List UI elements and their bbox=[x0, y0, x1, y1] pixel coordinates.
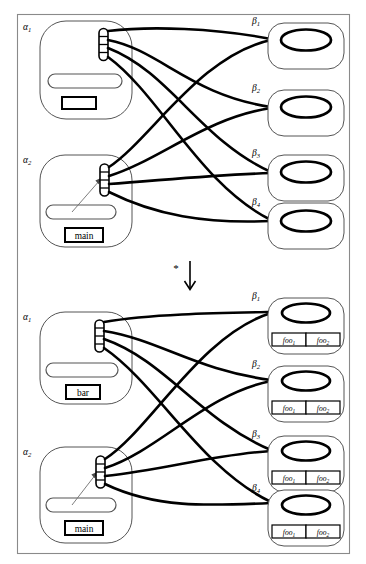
alpha-node-1-box bbox=[62, 97, 96, 109]
beta-node-3-ellipse bbox=[282, 442, 330, 461]
alpha-node-2-label: α2 bbox=[23, 155, 32, 166]
alpha-node-1[interactable]: α1 bbox=[23, 21, 132, 119]
beta-node-4-ellipse bbox=[282, 496, 330, 515]
target-graph: α1 bar α2 main bbox=[23, 291, 344, 546]
edge-a1-b1 bbox=[104, 312, 271, 322]
beta-node-3-cells: foo1 foo2 bbox=[272, 471, 340, 484]
beta-node-2-label: β2 bbox=[251, 83, 261, 94]
alpha-node-2-box-text: main bbox=[75, 524, 94, 534]
beta-node-1-ellipse bbox=[281, 30, 331, 51]
beta-node-3-ellipse bbox=[281, 162, 331, 183]
beta-node-2-ellipse bbox=[282, 372, 330, 391]
graph-transformation-figure: α1 α2 main bbox=[0, 0, 366, 564]
transform-indicator: * bbox=[173, 261, 195, 290]
source-graph: α1 α2 main bbox=[23, 16, 344, 249]
beta-node-2[interactable]: β2 foo1 foo2 bbox=[251, 359, 344, 422]
beta-node-4[interactable]: β4 foo1 foo2 bbox=[251, 483, 344, 546]
alpha-node-2-connector[interactable] bbox=[96, 456, 105, 488]
alpha-node-1-label: α1 bbox=[23, 312, 31, 323]
alpha-node-2-label: α2 bbox=[23, 447, 32, 458]
down-arrow-icon bbox=[185, 261, 196, 290]
beta-node-3-label: β3 bbox=[251, 148, 261, 159]
edge-a2-b3 bbox=[109, 173, 271, 184]
beta-node-2-cells: foo1 foo2 bbox=[272, 401, 340, 414]
alpha-node-1-label: α1 bbox=[23, 22, 31, 33]
alpha-node-1-pill bbox=[46, 363, 118, 377]
beta-node-2-label: β2 bbox=[251, 359, 261, 370]
beta-node-4-ellipse bbox=[281, 211, 331, 232]
alpha-node-2-pill bbox=[46, 498, 116, 512]
beta-node-4-cells: foo1 foo2 bbox=[272, 525, 340, 538]
figure-page: α1 α2 main bbox=[0, 0, 366, 564]
alpha-node-2-connector[interactable] bbox=[100, 164, 109, 196]
beta-node-4[interactable]: β4 bbox=[251, 197, 344, 249]
beta-node-3[interactable]: β3 foo1 foo2 bbox=[251, 429, 344, 492]
alpha-node-1-pill bbox=[48, 74, 122, 88]
alpha-node-1-box-text: bar bbox=[77, 388, 90, 398]
beta-node-1[interactable]: β1 foo1 foo2 bbox=[251, 291, 344, 354]
beta-node-3-label: β3 bbox=[251, 429, 261, 440]
edge-a2-b4 bbox=[109, 192, 271, 222]
alpha-node-1-connector[interactable] bbox=[99, 29, 108, 61]
alpha-node-1-connector[interactable] bbox=[95, 320, 104, 352]
alpha-node-2[interactable]: α2 main bbox=[23, 447, 132, 543]
beta-node-1-label: β1 bbox=[251, 16, 260, 27]
beta-node-4-label: β4 bbox=[251, 483, 261, 494]
transform-star: * bbox=[173, 262, 179, 274]
alpha-node-2[interactable]: α2 main bbox=[23, 155, 132, 247]
beta-node-1-ellipse bbox=[282, 304, 330, 323]
edge-a2-b2 bbox=[109, 108, 271, 176]
beta-node-2-ellipse bbox=[281, 97, 331, 118]
alpha-node-2-box-text: main bbox=[75, 231, 94, 241]
edge-a1-b1 bbox=[108, 28, 271, 39]
alpha-node-2-pill bbox=[46, 205, 116, 219]
beta-node-4-label: β4 bbox=[251, 197, 261, 208]
beta-node-1-label: β1 bbox=[251, 291, 260, 302]
beta-node-1-cells: foo1 foo2 bbox=[272, 333, 340, 346]
